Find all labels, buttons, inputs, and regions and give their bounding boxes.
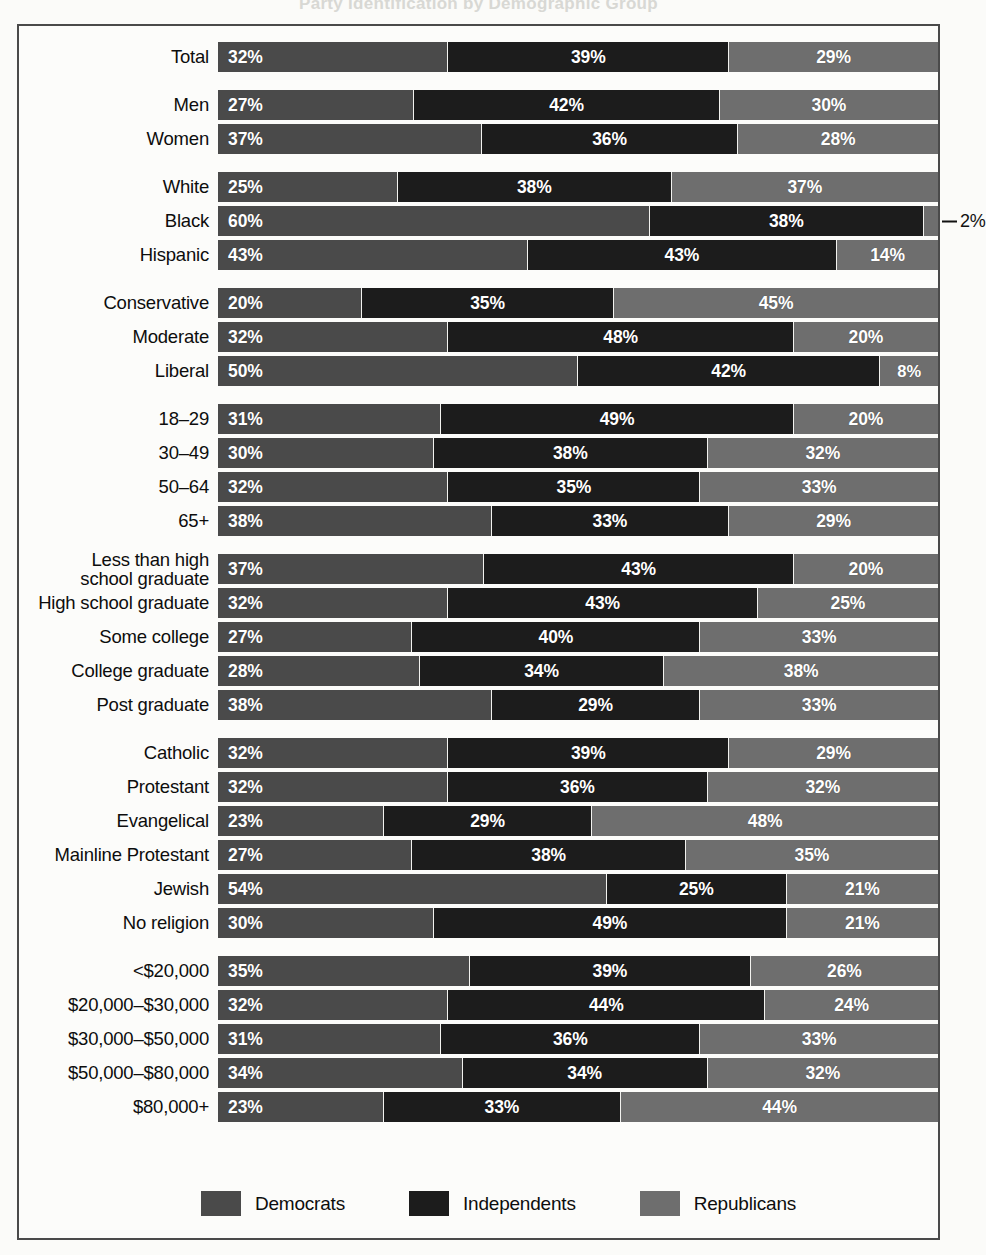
bar-row: Men27%42%30%	[19, 90, 938, 120]
category-label: Conservative	[19, 288, 218, 318]
category-label: 18–29	[19, 404, 218, 434]
bar-segment-republicans: 33%	[700, 472, 938, 502]
segment-value: 33%	[700, 1029, 938, 1050]
category-label: Evangelical	[19, 806, 218, 836]
segment-value: 24%	[765, 995, 938, 1016]
stacked-bar: 50%42%8%	[218, 356, 938, 386]
segment-value: 38%	[412, 845, 685, 866]
bar-row: $50,000–$80,00034%34%32%	[19, 1058, 938, 1088]
bar-segment-democrats: 32%	[218, 738, 448, 768]
segment-value: 44%	[448, 995, 764, 1016]
segment-value: 20%	[794, 559, 938, 580]
legend-swatch-icon	[640, 1191, 680, 1216]
segment-value: 39%	[470, 961, 750, 982]
segment-value: 25%	[758, 593, 938, 614]
bar-row: High school graduate32%43%25%	[19, 588, 938, 618]
stacked-bar: 37%43%20%	[218, 554, 938, 584]
segment-value: 38%	[434, 443, 707, 464]
bar-segment-republicans: 48%	[592, 806, 938, 836]
bar-segment-independents: 33%	[384, 1092, 622, 1122]
segment-value: 33%	[700, 477, 938, 498]
bar-segment-republicans: 29%	[729, 42, 938, 72]
segment-value: 33%	[384, 1097, 621, 1118]
segment-value: 32%	[218, 743, 263, 764]
category-label: Liberal	[19, 356, 218, 386]
bar-segment-democrats: 37%	[218, 554, 484, 584]
stacked-bar: 27%38%35%	[218, 840, 938, 870]
category-label: Jewish	[19, 874, 218, 904]
stacked-bar: 34%34%32%	[218, 1058, 938, 1088]
bar-segment-democrats: 35%	[218, 956, 470, 986]
bar-segment-independents: 35%	[448, 472, 700, 502]
category-label: White	[19, 172, 218, 202]
bar-segment-independents: 38%	[398, 172, 672, 202]
segment-value: 54%	[218, 879, 263, 900]
bar-segment-republicans: 21%	[787, 874, 938, 904]
bar-segment-independents: 29%	[492, 690, 701, 720]
bar-group-income: <$20,00035%39%26%$20,000–$30,00032%44%24…	[19, 956, 938, 1122]
segment-value: 34%	[463, 1063, 707, 1084]
stacked-bar: 20%35%45%	[218, 288, 938, 318]
bar-segment-democrats: 60%	[218, 206, 650, 236]
segment-value: 8%	[880, 362, 938, 381]
category-label: Catholic	[19, 738, 218, 768]
chart-legend: DemocratsIndependentsRepublicans	[19, 1191, 938, 1216]
bar-segment-independents: 48%	[448, 322, 794, 352]
category-label: Mainline Protestant	[19, 840, 218, 870]
segment-value: 14%	[837, 245, 938, 266]
segment-value: 28%	[218, 661, 263, 682]
bar-segment-republicans: 32%	[708, 438, 938, 468]
bar-segment-independents: 33%	[492, 506, 730, 536]
bar-row: 18–2931%49%20%	[19, 404, 938, 434]
segment-value: 21%	[787, 879, 938, 900]
bar-segment-independents: 36%	[448, 772, 707, 802]
segment-value: 28%	[738, 129, 938, 150]
stacked-bar: 27%42%30%	[218, 90, 938, 120]
segment-value: 31%	[218, 409, 263, 430]
bar-segment-democrats: 54%	[218, 874, 607, 904]
segment-value: 50%	[218, 361, 263, 382]
bar-segment-independents: 39%	[448, 738, 729, 768]
stacked-bar: 30%38%32%	[218, 438, 938, 468]
bar-row: Mainline Protestant27%38%35%	[19, 840, 938, 870]
category-label: College graduate	[19, 656, 218, 686]
cropped-title: Party Identification by Demographic Grou…	[0, 0, 957, 16]
bar-segment-republicans: 32%	[708, 1058, 938, 1088]
bar-segment-democrats: 37%	[218, 124, 482, 154]
legend-label: Republicans	[694, 1193, 796, 1215]
bar-segment-republicans: 20%	[794, 404, 938, 434]
segment-value: 20%	[794, 409, 938, 430]
bar-row: Evangelical23%29%48%	[19, 806, 938, 836]
category-label: Black	[19, 206, 218, 236]
bar-segment-independents: 42%	[414, 90, 719, 120]
segment-value: 25%	[607, 879, 786, 900]
segment-value: 33%	[700, 627, 938, 648]
bar-row: Protestant32%36%32%	[19, 772, 938, 802]
bar-rows-container: Total32%39%29%Men27%42%30%Women37%36%28%…	[19, 26, 938, 1238]
stacked-bar: 32%35%33%	[218, 472, 938, 502]
legend-label: Independents	[463, 1193, 576, 1215]
bar-segment-republicans: 25%	[758, 588, 938, 618]
category-label: Moderate	[19, 322, 218, 352]
segment-value: 36%	[448, 777, 706, 798]
category-label: Less than high school graduate	[19, 554, 218, 584]
bar-segment-independents: 40%	[412, 622, 700, 652]
segment-value: 34%	[218, 1063, 263, 1084]
legend-item: Democrats	[201, 1191, 345, 1216]
bar-row: Hispanic43%43%14%	[19, 240, 938, 270]
segment-value: 33%	[700, 695, 938, 716]
bar-segment-democrats: 30%	[218, 908, 434, 938]
bar-segment-independents: 34%	[420, 656, 665, 686]
value-callout: 2%	[938, 211, 986, 232]
bar-segment-democrats: 31%	[218, 404, 441, 434]
segment-value: 29%	[729, 47, 938, 68]
segment-value: 44%	[621, 1097, 938, 1118]
bar-segment-independents: 38%	[434, 438, 708, 468]
segment-value: 38%	[218, 511, 263, 532]
segment-value: 23%	[218, 1097, 263, 1118]
segment-value: 33%	[492, 511, 729, 532]
bar-segment-republicans: 14%	[837, 240, 938, 270]
bar-row: Women37%36%28%	[19, 124, 938, 154]
segment-value: 32%	[218, 477, 263, 498]
segment-value: 32%	[218, 777, 263, 798]
